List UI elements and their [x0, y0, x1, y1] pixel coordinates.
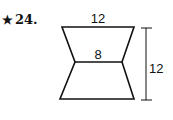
middle-base-label: 8 [94, 47, 101, 62]
figure-outline [60, 27, 134, 99]
top-base-label: 12 [91, 11, 105, 26]
hourglass-figure: 12 8 12 [0, 0, 173, 120]
height-label: 12 [149, 61, 163, 76]
